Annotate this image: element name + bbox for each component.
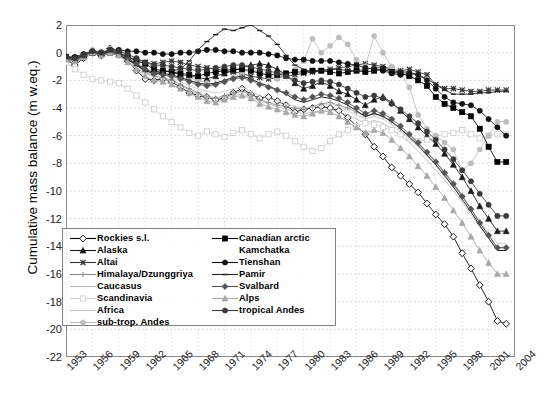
legend-marker-icon xyxy=(211,233,239,244)
legend-label: Alps xyxy=(239,293,260,304)
y-tick-label: -12 xyxy=(46,213,62,225)
legend-item: tropical Andes xyxy=(211,305,333,317)
legend-label: Africa xyxy=(97,305,124,316)
legend-marker-icon xyxy=(69,281,97,292)
series-caucasus xyxy=(66,53,506,251)
legend-column-right: Canadian arcticKamchatkaTienshanPamirSva… xyxy=(211,232,333,317)
y-tick-label: -6 xyxy=(52,130,62,142)
y-tick-label: -16 xyxy=(46,268,62,280)
y-tick-label: -4 xyxy=(52,102,62,114)
legend-marker-icon xyxy=(211,293,239,304)
legend-label: Altai xyxy=(97,257,118,268)
legend-item: sub-trop. Andes xyxy=(69,317,209,329)
legend-item: Canadian arctic xyxy=(211,232,333,244)
legend-item: Africa xyxy=(69,305,209,317)
legend-marker-icon xyxy=(211,305,239,316)
y-tick-label: -10 xyxy=(46,185,62,197)
legend-item: Rockies s.l. xyxy=(69,232,209,244)
series-kamchatka xyxy=(66,53,506,251)
legend-item: Pamir xyxy=(211,268,333,280)
legend-marker-icon xyxy=(69,305,97,316)
y-tick-label: 2 xyxy=(56,19,62,31)
y-tick-label: -8 xyxy=(52,157,62,169)
legend-label: Caucasus xyxy=(97,281,142,292)
legend-label: Kamchatka xyxy=(239,245,290,256)
legend-marker-icon xyxy=(69,317,97,328)
legend-item: Himalaya/Dzunggriya xyxy=(69,268,209,280)
y-tick-label: -18 xyxy=(46,296,62,308)
legend-item: Kamchatka xyxy=(211,244,333,256)
legend-marker-icon xyxy=(211,269,239,280)
legend-item: Altai xyxy=(69,256,209,268)
y-tick-label: -22 xyxy=(46,351,62,363)
legend-label: Canadian arctic xyxy=(239,233,310,244)
legend-marker-icon xyxy=(69,245,97,256)
legend-label: sub-trop. Andes xyxy=(97,317,169,328)
y-axis-ticks: 20-2-4-6-8-10-12-14-16-18-20-22 xyxy=(18,25,62,357)
legend-label: Svalbard xyxy=(239,281,279,292)
legend-label: Scandinavia xyxy=(97,293,152,304)
legend-marker-icon xyxy=(69,293,97,304)
x-axis-ticks: 1953195619591962196519681971197419771980… xyxy=(66,360,526,410)
legend-marker-icon xyxy=(69,257,97,268)
legend-item: Alaska xyxy=(69,244,209,256)
x-tick-label: 2004 xyxy=(513,347,538,372)
y-tick-label: -14 xyxy=(46,240,62,252)
legend-marker-icon xyxy=(69,233,97,244)
chart-root: Cumulative mass balance (m w.eq.) 20-2-4… xyxy=(0,0,544,413)
legend-marker-icon xyxy=(69,269,97,280)
legend-item: Scandinavia xyxy=(69,292,209,304)
legend-label: Rockies s.l. xyxy=(97,233,149,244)
legend-marker-icon xyxy=(211,245,239,256)
y-tick-label: -20 xyxy=(46,323,62,335)
legend-column-left: Rockies s.l.AlaskaAltaiHimalaya/Dzunggri… xyxy=(69,232,209,329)
legend-label: Pamir xyxy=(239,269,265,280)
legend-label: tropical Andes xyxy=(239,305,305,316)
legend-item: Alps xyxy=(211,292,333,304)
legend-item: Tienshan xyxy=(211,256,333,268)
y-tick-label: -2 xyxy=(52,74,62,86)
chart-legend: Rockies s.l.AlaskaAltaiHimalaya/Dzunggri… xyxy=(62,228,336,326)
legend-label: Himalaya/Dzunggriya xyxy=(97,269,193,280)
legend-label: Tienshan xyxy=(239,257,280,268)
legend-label: Alaska xyxy=(97,245,128,256)
legend-item: Caucasus xyxy=(69,280,209,292)
legend-marker-icon xyxy=(211,281,239,292)
legend-item: Svalbard xyxy=(211,280,333,292)
legend-marker-icon xyxy=(211,257,239,268)
y-tick-label: 0 xyxy=(56,47,62,59)
